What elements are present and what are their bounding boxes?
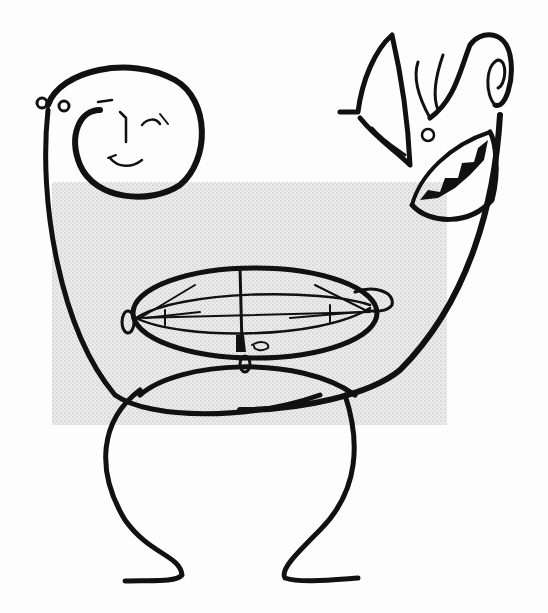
face-cheek [108,155,116,158]
creature-illustration [0,0,548,613]
head-curl-left-icon [37,98,47,108]
airship-mast [240,268,242,345]
face-brow [98,100,112,102]
face-eye-lash [160,114,168,124]
face-smile [110,158,142,166]
dragon-snout [430,35,511,118]
dragon-cheek-curl-icon [422,129,434,141]
face-nose [120,112,126,142]
illustration-canvas [0,0,548,613]
dragon-ear [340,35,410,165]
dragon-eye [372,128,405,155]
face-closed-eye [142,120,160,125]
dragon-snout-spiral-icon [488,60,505,105]
head-curl-right-icon [59,101,69,111]
